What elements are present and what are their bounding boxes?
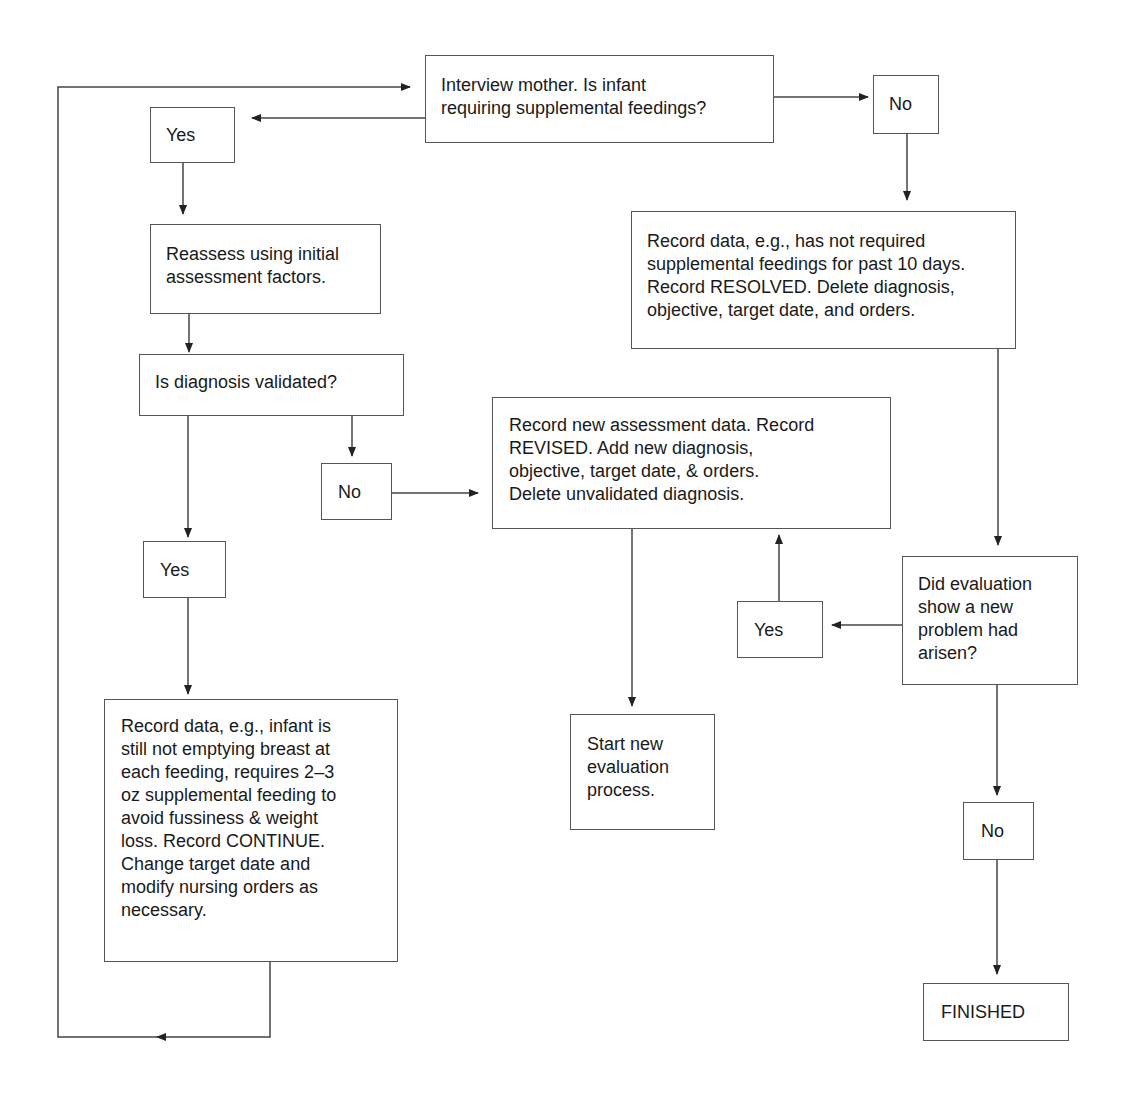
node-yes-new-problem: Yes — [737, 601, 823, 658]
node-revised: Record new assessment data. Record REVIS… — [492, 397, 891, 529]
node-resolved: Record data, e.g., has not required supp… — [631, 211, 1016, 349]
node-start-new-evaluation: Start new evaluation process. — [570, 714, 715, 830]
node-yes-supplemental: Yes — [150, 107, 235, 163]
node-no-supplemental: No — [873, 75, 939, 134]
node-finished: FINISHED — [923, 983, 1069, 1041]
node-continue: Record data, e.g., infant is still not e… — [104, 699, 398, 962]
node-diagnosis-validated-question: Is diagnosis validated? — [139, 354, 404, 416]
node-yes-validated: Yes — [143, 541, 226, 598]
node-new-problem-question: Did evaluation show a new problem had ar… — [902, 556, 1078, 685]
node-no-validated: No — [321, 463, 392, 520]
node-interview-question: Interview mother. Is infant requiring su… — [425, 55, 774, 143]
node-no-new-problem: No — [963, 802, 1034, 860]
node-reassess: Reassess using initial assessment factor… — [150, 224, 381, 314]
